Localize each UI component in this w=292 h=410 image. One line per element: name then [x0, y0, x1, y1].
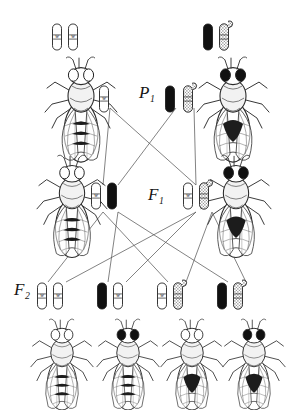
chromosome-white-w: w — [100, 86, 109, 112]
generation-label-subscript: 1 — [149, 93, 154, 104]
diagram-canvas: wwwwwwwww — [0, 0, 292, 410]
fly-eye-white — [84, 69, 94, 81]
fly-eye-white — [51, 329, 60, 340]
gamete-paternal-black — [166, 86, 175, 112]
fly-eye-white — [68, 69, 78, 81]
fly-eye-dark — [239, 167, 249, 179]
fly-eye-dark — [243, 329, 252, 340]
chromosome-allele-marker: w — [56, 292, 60, 298]
chromosome-white-w: w — [38, 283, 47, 309]
fly-eye-dark — [220, 69, 230, 81]
chromosome-white-w: w — [69, 24, 78, 50]
generation-label-p1: P1 — [139, 84, 155, 104]
chromosome-black — [98, 283, 107, 309]
chromosome-white-w: w — [158, 283, 167, 309]
fly-eye-white — [194, 329, 203, 340]
chromosome-black — [108, 183, 117, 209]
chromosome-allele-marker: w — [40, 292, 44, 298]
fly-eye-white — [60, 167, 70, 179]
chromosome-allele-marker: w — [186, 192, 190, 198]
chromosome-allele-marker: w — [55, 33, 59, 39]
chromosome-white-w: w — [53, 24, 62, 50]
chromosome-white-w: w — [54, 283, 63, 309]
chromosome-allele-marker: w — [102, 95, 106, 101]
chromosome-allele-marker: w — [94, 192, 98, 198]
generation-label-f1: F1 — [148, 186, 164, 206]
chromosome-white-w: w — [92, 183, 101, 209]
fly-eye-dark — [236, 69, 246, 81]
fly-eye-white — [64, 329, 73, 340]
chromosome-allele-marker: w — [71, 33, 75, 39]
fly-eye-dark — [117, 329, 126, 340]
generation-label-subscript: 2 — [24, 290, 29, 301]
fly-eye-dark — [224, 167, 234, 179]
fly-eye-white — [75, 167, 85, 179]
chromosome-white-w: w — [184, 183, 193, 209]
chromosome-white-w: w — [114, 283, 123, 309]
generation-label-f2: F2 — [14, 281, 30, 301]
chromosome-allele-marker: w — [160, 292, 164, 298]
chromosome-allele-marker: w — [116, 292, 120, 298]
chromosome-black — [204, 24, 213, 50]
fly-eye-dark — [256, 329, 265, 340]
fly-eye-white — [181, 329, 190, 340]
genetics-diagram: wwwwwwwww P1 F1 F2 — [0, 0, 292, 410]
fly-eye-dark — [130, 329, 139, 340]
generation-label-subscript: 1 — [158, 195, 163, 206]
chromosome-black — [218, 283, 227, 309]
gamete-maternal: w — [100, 86, 109, 112]
chromosome-black — [166, 86, 175, 112]
